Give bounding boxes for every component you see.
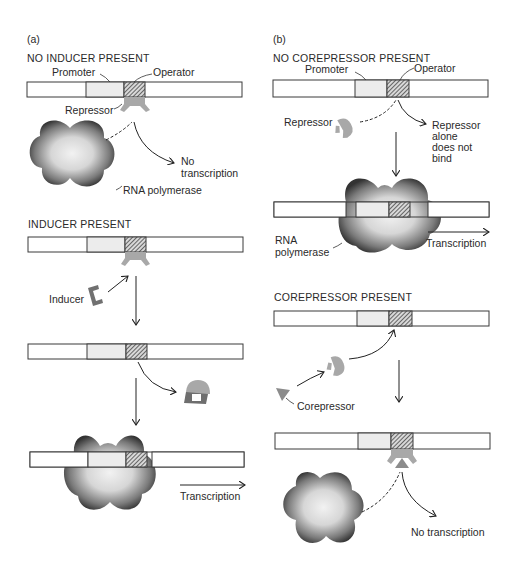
diagram-canvas — [0, 0, 517, 573]
inducer-label: Inducer — [49, 293, 84, 305]
dna-strand-a3 — [28, 344, 243, 359]
repressor-label: Repressor — [65, 104, 113, 116]
operator-region — [124, 82, 145, 97]
dna-strand-b1 — [273, 80, 488, 97]
promoter-label: Promoter — [305, 63, 348, 75]
corepressor-icon — [276, 388, 290, 401]
rna-polymerase-transcribing-icon — [64, 436, 156, 510]
rna-polymerase-label-1: RNA — [275, 234, 297, 246]
operator-label: Operator — [153, 66, 194, 78]
no-transcription-label: No transcription — [411, 526, 485, 538]
rna-polymerase-icon — [30, 120, 115, 186]
heading-no-corepressor: NO COREPRESSOR PRESENT — [273, 52, 430, 64]
heading-no-inducer: NO INDUCER PRESENT — [27, 52, 150, 64]
promoter-label: Promoter — [52, 66, 95, 78]
outcome-line-1: No — [181, 155, 194, 167]
repressor-free-icon — [325, 354, 347, 379]
outcome-line-2: transcription — [181, 167, 238, 179]
repressor-corepressor-complex-icon — [387, 449, 417, 468]
promoter-region — [86, 82, 124, 97]
repressor-label: Repressor — [284, 116, 332, 128]
panel-b-label: (b) — [273, 33, 286, 45]
repressor-bound-icon — [120, 97, 150, 112]
rna-polymerase-label: RNA polymerase — [123, 184, 202, 196]
dna-strand-a1 — [27, 82, 242, 97]
inducer-icon — [88, 285, 103, 306]
rna-polymerase-label-2: polymerase — [275, 246, 329, 258]
repressor-free-icon — [332, 115, 356, 141]
heading-inducer-present: INDUCER PRESENT — [28, 218, 131, 230]
dna-strand-b4 — [275, 433, 490, 449]
corepressor-label: Corepressor — [297, 400, 355, 412]
repressor-inducer-complex-icon — [184, 380, 210, 404]
operator-label: Operator — [414, 62, 455, 74]
heading-corepressor-present: COREPRESSOR PRESENT — [274, 291, 412, 303]
dna-strand-a2 — [28, 237, 243, 252]
note-line-4: bind — [432, 152, 452, 164]
dna-strand-b3 — [274, 311, 489, 326]
repressor-bound-icon — [121, 252, 150, 266]
rna-polymerase-icon — [283, 472, 363, 543]
dna-strand-a4 — [30, 452, 244, 467]
transcription-label: Transcription — [180, 490, 240, 502]
dna-strand-b2 — [274, 202, 489, 217]
transcription-label: Transcription — [426, 237, 486, 249]
panel-a-label: (a) — [27, 33, 40, 45]
